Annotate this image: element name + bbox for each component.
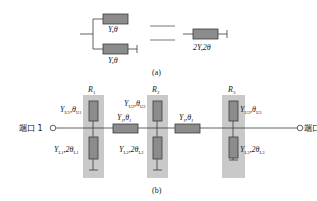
r2-lower-label: YL2,2θL2 [119, 145, 143, 155]
port2-terminal-icon [297, 125, 303, 131]
series-line-2-label: YJ,θJ [179, 113, 193, 123]
equals-sign [150, 26, 175, 40]
lower-stub-component [103, 44, 128, 54]
port2-label: 端口 2 [304, 123, 317, 133]
filter-circuit-diagram: Y,θ Y,θ 2Y,2θ (a) [0, 0, 317, 201]
r2-upper-label: YU2,θU2 [124, 99, 145, 109]
port1-label: 端口 1 [19, 123, 43, 133]
series-line-2 [175, 124, 200, 133]
r3-lower-label: YL3,2θL3 [240, 145, 265, 155]
r1-title: R1 [87, 85, 96, 95]
lower-stub-label: Y,θ [108, 56, 118, 65]
equivalent-stub-label: 2Y,2θ [193, 43, 211, 52]
part-a-equivalent-stub: 2Y,2θ [183, 29, 227, 52]
r3-title: R3 [227, 85, 236, 95]
series-line-1 [113, 124, 138, 133]
upper-stub-component [103, 14, 128, 24]
caption-a: (a) [152, 68, 161, 77]
port1-terminal-icon [50, 125, 56, 131]
upper-stub-label: Y,θ [108, 25, 118, 34]
series-line-1-label: YJ,θJ [117, 113, 131, 123]
caption-b: (b) [152, 186, 162, 195]
r2-title: R2 [151, 85, 160, 95]
r1-lower-label: YL1,2θL1 [54, 145, 78, 155]
equivalent-stub-component [193, 29, 218, 39]
part-a-parallel-stubs: Y,θ Y,θ [80, 14, 137, 65]
r1-upper-label: YU1,θU1 [60, 105, 81, 115]
r3-upper-label: YU3,θU3 [240, 105, 262, 115]
